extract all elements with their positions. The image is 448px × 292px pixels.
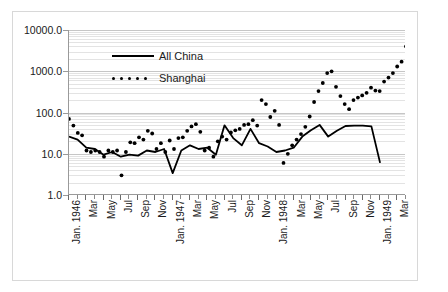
- x-axis-tick-label: Mar: [297, 200, 307, 217]
- series-point-shanghai: [286, 152, 290, 156]
- series-point-shanghai: [308, 115, 312, 119]
- x-axis-tick-mark: [215, 195, 216, 199]
- series-point-shanghai: [155, 147, 159, 151]
- series-point-shanghai: [111, 150, 115, 154]
- series-point-shanghai: [146, 129, 150, 133]
- x-axis-tick-label: Nov: [158, 200, 168, 218]
- series-point-shanghai: [290, 143, 294, 147]
- series-point-shanghai: [107, 149, 111, 153]
- series-point-shanghai: [150, 132, 154, 136]
- x-axis-tick-label: Jul: [331, 200, 341, 213]
- x-axis-tick-label: Nov: [262, 200, 272, 218]
- series-point-shanghai: [334, 85, 338, 89]
- series-point-shanghai: [264, 102, 268, 106]
- x-axis-tick-label: Jan. 1949: [383, 200, 393, 244]
- x-axis-tick-label: Mar: [89, 200, 99, 217]
- series-point-shanghai: [115, 149, 119, 153]
- series-point-shanghai: [339, 94, 343, 98]
- series-point-shanghai: [76, 131, 80, 135]
- series-point-shanghai: [321, 81, 325, 85]
- x-axis-tick-mark: [128, 195, 129, 199]
- series-point-shanghai: [312, 100, 316, 104]
- x-axis-tick-mark: [284, 195, 285, 199]
- series-point-shanghai: [247, 122, 251, 126]
- series-point-shanghai: [229, 131, 233, 135]
- series-point-shanghai: [360, 94, 364, 98]
- legend-label-all-china: All China: [159, 51, 203, 62]
- legend-label-shanghai: Shanghai: [159, 73, 206, 84]
- solid-line-icon: [112, 55, 154, 57]
- series-point-shanghai: [93, 149, 97, 153]
- series-point-shanghai: [220, 135, 224, 139]
- y-axis-tick-label: 10.0: [42, 149, 62, 160]
- series-point-shanghai: [198, 130, 202, 134]
- series-point-shanghai: [330, 69, 334, 73]
- series-point-shanghai: [277, 123, 281, 127]
- series-point-shanghai: [128, 140, 132, 144]
- series-point-shanghai: [251, 118, 255, 122]
- series-point-shanghai: [212, 155, 216, 159]
- series-point-shanghai: [225, 138, 229, 142]
- x-axis-tick-label: Jul: [124, 200, 134, 213]
- x-axis-tick-mark: [94, 195, 95, 199]
- chart-container: 1.010.0100.01000.010000.0 Jan. 1946MarMa…: [0, 0, 448, 292]
- y-axis-tick-label: 10000.0: [24, 25, 62, 36]
- series-point-shanghai: [190, 125, 194, 129]
- series-point-shanghai: [68, 117, 71, 121]
- series-point-shanghai: [391, 71, 395, 75]
- x-axis-tick-label: May: [314, 200, 324, 219]
- x-axis-tick-label: May: [210, 200, 220, 219]
- legend-item-shanghai: Shanghai: [112, 69, 206, 87]
- x-axis-tick-label: Jan. 1948: [279, 200, 289, 244]
- series-point-shanghai: [98, 150, 102, 154]
- series-line-all-china: [69, 125, 380, 173]
- x-axis-tick-mark: [249, 195, 250, 199]
- x-axis-tick-mark: [336, 195, 337, 199]
- y-axis-labels: 1.010.0100.01000.010000.0: [12, 22, 68, 202]
- series-point-shanghai: [404, 45, 405, 49]
- series-point-shanghai: [194, 122, 198, 126]
- series-point-shanghai: [299, 132, 303, 136]
- x-axis-tick-mark: [77, 195, 78, 199]
- series-point-shanghai: [303, 125, 307, 129]
- x-axis-tick-label: Sep: [141, 200, 151, 218]
- y-axis-tick-label: 1000.0: [30, 66, 62, 77]
- series-point-shanghai: [365, 91, 369, 95]
- chart-legend: All China Shanghai: [112, 47, 242, 91]
- x-axis-tick-label: Sep: [245, 200, 255, 218]
- series-point-shanghai: [369, 86, 373, 90]
- series-point-shanghai: [216, 139, 220, 143]
- series-point-shanghai: [124, 150, 128, 154]
- series-point-shanghai: [133, 141, 137, 145]
- series-point-shanghai: [72, 124, 76, 128]
- series-point-shanghai: [168, 139, 172, 143]
- y-axis-tick-label: 100.0: [36, 108, 62, 119]
- series-point-shanghai: [400, 60, 404, 64]
- legend-item-all-china: All China: [112, 47, 203, 65]
- series-point-shanghai: [159, 141, 163, 145]
- x-axis-tick-label: Nov: [366, 200, 376, 218]
- series-point-shanghai: [163, 150, 167, 154]
- series-point-shanghai: [238, 127, 242, 131]
- series-point-shanghai: [317, 89, 321, 93]
- x-axis-tick-mark: [353, 195, 354, 199]
- series-point-shanghai: [207, 146, 211, 150]
- series-point-shanghai: [295, 138, 299, 142]
- series-point-shanghai: [282, 161, 286, 165]
- series-point-shanghai: [142, 138, 146, 142]
- series-point-shanghai: [181, 135, 185, 139]
- series-point-shanghai: [382, 80, 386, 84]
- x-axis-tick-mark: [198, 195, 199, 199]
- x-axis-tick-label: Mar: [193, 200, 203, 217]
- x-axis-tick-mark: [111, 195, 112, 199]
- y-axis-tick-label: 1.0: [47, 190, 62, 201]
- series-point-shanghai: [85, 149, 89, 153]
- series-point-shanghai: [325, 71, 329, 75]
- series-point-shanghai: [185, 129, 189, 133]
- x-axis-tick-label: Jul: [228, 200, 238, 213]
- series-point-shanghai: [378, 89, 382, 93]
- x-axis-tick-mark: [180, 195, 181, 199]
- series-point-shanghai: [356, 96, 360, 100]
- series-point-shanghai: [120, 173, 124, 177]
- series-point-shanghai: [203, 149, 207, 153]
